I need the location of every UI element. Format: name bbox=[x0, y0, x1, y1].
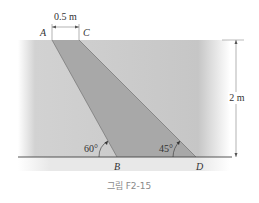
figure-diagram: 0.5 m A C B D 2 m 60° 45° 그림 F2-15 bbox=[0, 0, 259, 203]
figure-caption: 그림 F2-15 bbox=[107, 180, 151, 191]
point-label-c: C bbox=[83, 27, 90, 38]
angle-label-d: 45° bbox=[159, 143, 173, 154]
point-label-d: D bbox=[195, 161, 204, 172]
arrow-down-icon bbox=[235, 153, 238, 157]
point-label-a: A bbox=[39, 27, 47, 38]
arrow-up-icon bbox=[235, 40, 238, 44]
arrow-left-icon bbox=[52, 26, 56, 29]
point-label-b: B bbox=[114, 161, 120, 172]
arrow-right-icon bbox=[75, 26, 79, 29]
dim-label-top-width: 0.5 m bbox=[54, 11, 77, 22]
angle-label-b: 60° bbox=[84, 143, 98, 154]
dim-label-height: 2 m bbox=[229, 92, 245, 103]
